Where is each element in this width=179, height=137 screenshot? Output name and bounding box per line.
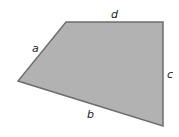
quadrilateral-diagram: a b c d xyxy=(0,0,179,137)
side-label-a: a xyxy=(32,42,39,55)
side-label-d: d xyxy=(111,8,119,21)
side-label-b: b xyxy=(87,108,94,121)
side-label-c: c xyxy=(167,68,173,81)
